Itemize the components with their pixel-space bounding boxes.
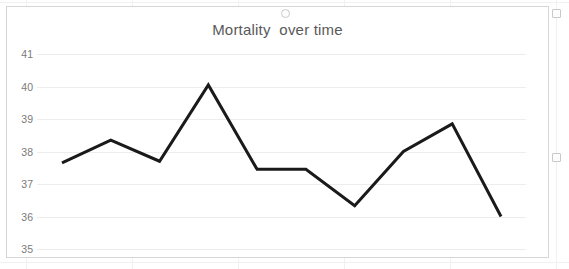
y-axis-tick-label: 41 bbox=[21, 48, 33, 60]
resize-handle-middle-right[interactable] bbox=[552, 153, 561, 162]
y-axis-tick-label: 36 bbox=[21, 211, 33, 223]
gridline bbox=[37, 249, 526, 250]
chart-title[interactable]: Mortality over time bbox=[7, 21, 548, 38]
sheet-row-divider bbox=[0, 2, 569, 3]
resize-handle-top-center[interactable] bbox=[281, 9, 290, 18]
resize-handle-top-right[interactable] bbox=[552, 9, 561, 18]
y-axis-tick-label: 37 bbox=[21, 178, 33, 190]
sheet-row-divider bbox=[0, 262, 569, 263]
y-axis[interactable]: 41403938373635 bbox=[7, 54, 33, 249]
y-axis-tick-label: 40 bbox=[21, 81, 33, 93]
chart-object[interactable]: Mortality over time 41403938373635 bbox=[6, 6, 549, 258]
y-axis-tick-label: 35 bbox=[21, 243, 33, 255]
y-axis-tick-label: 38 bbox=[21, 146, 33, 158]
sheet-column-divider bbox=[556, 0, 557, 269]
plot-area[interactable] bbox=[37, 54, 526, 249]
line-series[interactable] bbox=[37, 54, 526, 249]
series-line-mortality[interactable] bbox=[62, 85, 501, 217]
y-axis-tick-label: 39 bbox=[21, 113, 33, 125]
